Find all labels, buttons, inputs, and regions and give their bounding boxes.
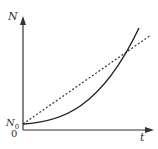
plot-area — [0, 0, 158, 149]
x-axis-label: t — [140, 131, 144, 144]
n0-main: N — [6, 117, 15, 128]
dotted-line — [23, 35, 151, 124]
growth-curve — [23, 28, 139, 124]
origin-label: 0 — [11, 128, 17, 139]
y-axis-label: N — [8, 10, 18, 23]
x-axis-arrow-icon — [145, 127, 154, 133]
chart: N t N0 0 — [0, 0, 158, 149]
y-axis-arrow-icon — [20, 16, 26, 25]
